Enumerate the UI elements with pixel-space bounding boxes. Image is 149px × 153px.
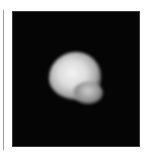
bright-object-lobe — [73, 82, 103, 104]
image-panel — [12, 11, 140, 147]
divider-line — [3, 10, 4, 150]
